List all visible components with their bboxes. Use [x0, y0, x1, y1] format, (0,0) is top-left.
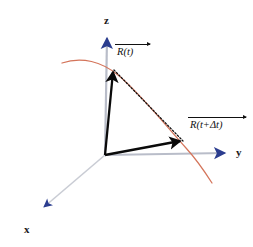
- vector-label-R-of-t: R(t): [117, 47, 133, 58]
- vector-diagram-figure: z y x R(t) R(t+Δt): [0, 0, 253, 247]
- axis-line-x: [44, 155, 105, 207]
- vector-label-R-of-t-plus-delta-t: R(t+Δt): [190, 120, 223, 131]
- axis-label-z: z: [104, 15, 109, 26]
- vector-overline-R-of-t-plus-delta-t: [188, 117, 246, 118]
- axis-label-x: x: [24, 224, 30, 235]
- vector-overline-R-of-t: [115, 44, 150, 45]
- axis-label-y: y: [236, 147, 242, 158]
- displacement-dashed-line: [114, 70, 183, 141]
- vectors-group: [105, 72, 180, 155]
- axis-line-y: [105, 153, 225, 155]
